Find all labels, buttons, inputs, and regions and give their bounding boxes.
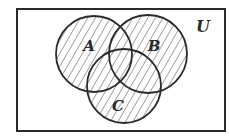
set-b-label: B	[148, 39, 161, 54]
venn-diagram: A B C U	[0, 0, 229, 139]
set-a-label: A	[83, 39, 95, 54]
universe-label: U	[196, 19, 210, 35]
venn-svg	[0, 0, 229, 139]
set-c-label: C	[112, 99, 124, 114]
